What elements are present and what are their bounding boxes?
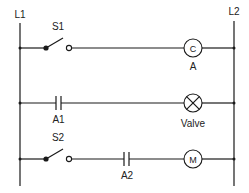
switch-terminal-icon xyxy=(66,156,71,161)
contact-a2-label: A2 xyxy=(121,170,134,181)
coil-symbol: C xyxy=(190,44,197,54)
ladder-diagram: L1 L2 S1 C A A1 xyxy=(0,0,249,193)
rung-3: S2 A2 M xyxy=(19,132,236,181)
motor-symbol: M xyxy=(189,155,197,165)
switch-s2-label: S2 xyxy=(52,132,65,143)
coil-a-label: A xyxy=(190,61,197,72)
rung-2: A1 Valve xyxy=(19,94,236,129)
switch-terminal-icon xyxy=(66,45,71,50)
contact-a1: A1 xyxy=(52,96,65,125)
rung-1: S1 C A xyxy=(19,21,236,72)
left-rail-label: L1 xyxy=(14,9,26,20)
switch-s2: S2 xyxy=(43,132,71,162)
switch-s1: S1 xyxy=(43,21,71,51)
lamp-valve-label: Valve xyxy=(181,118,206,129)
contact-a2: A2 xyxy=(121,152,134,181)
lamp-valve: Valve xyxy=(181,94,206,129)
right-rail-label: L2 xyxy=(228,6,240,17)
contact-a1-label: A1 xyxy=(52,114,65,125)
switch-s1-label: S1 xyxy=(52,21,65,32)
motor-m: M xyxy=(184,150,202,168)
coil-a: C A xyxy=(184,39,202,72)
